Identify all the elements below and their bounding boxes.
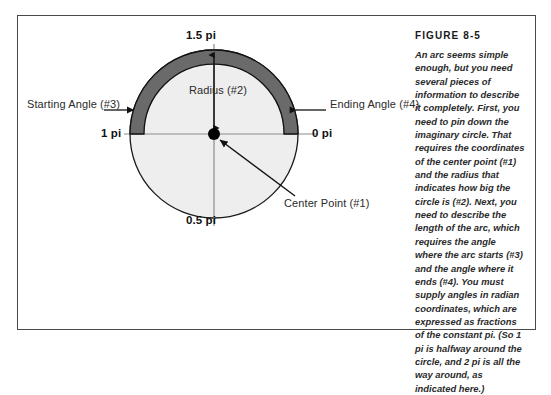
starting-angle-callout-label: Starting Angle (#3) <box>27 99 120 110</box>
angle-tick-0-5-pi: 0.5 pi <box>186 215 216 227</box>
angle-tick-1-5-pi: 1.5 pi <box>186 30 216 42</box>
angle-tick-0-pi: 0 pi <box>312 128 332 140</box>
figure-caption-text: An arc seems simple enough, but you need… <box>415 48 525 395</box>
arc-diagram-graphic <box>0 0 385 346</box>
ending-angle-callout-label: Ending Angle (#4) <box>330 99 419 110</box>
figure-heading: FIGURE 8-5 <box>415 30 525 42</box>
arc-diagram: 1.5 pi 1 pi 0 pi 0.5 pi Radius (#2) Star… <box>0 0 385 346</box>
center-point-callout-label: Center Point (#1) <box>284 198 369 209</box>
radius-callout-label: Radius (#2) <box>189 85 247 96</box>
figure-caption-panel: FIGURE 8-5 An arc seems simple enough, b… <box>415 30 525 395</box>
center-point-dot <box>208 128 220 140</box>
angle-tick-1-pi: 1 pi <box>101 128 121 140</box>
